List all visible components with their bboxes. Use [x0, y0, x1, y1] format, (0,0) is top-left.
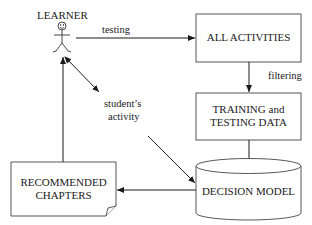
activity-label: activity	[108, 111, 140, 123]
student-label: student’s	[104, 98, 141, 110]
training-data-label-line1: TRAINING and	[196, 103, 301, 116]
learner-label: LEARNER	[37, 9, 88, 21]
learner-activity-arrow	[65, 57, 99, 92]
all-activities-label: ALL ACTIVITIES	[196, 31, 301, 44]
learner-actor-icon	[53, 22, 71, 52]
recommended-label-line1: RECOMMENDED	[11, 176, 116, 189]
activity-to-model-arrow	[148, 136, 195, 183]
recommended-label-line2: CHAPTERS	[11, 189, 116, 202]
decision-model-label: DECISION MODEL	[196, 185, 301, 198]
testing-label: testing	[102, 24, 130, 36]
filtering-label: filtering	[268, 70, 302, 82]
training-data-label-line2: TESTING DATA	[196, 116, 301, 129]
